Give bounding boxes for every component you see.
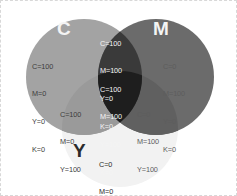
venn-stage: C M Y C=100 M=0 Y=0 K=0 C=100 M=100 Y=0 …	[1, 1, 237, 196]
venn-circles-graphic	[1, 1, 237, 196]
venn-diagram-canvas: C M Y C=100 M=0 Y=0 K=0 C=100 M=100 Y=0 …	[0, 0, 237, 196]
